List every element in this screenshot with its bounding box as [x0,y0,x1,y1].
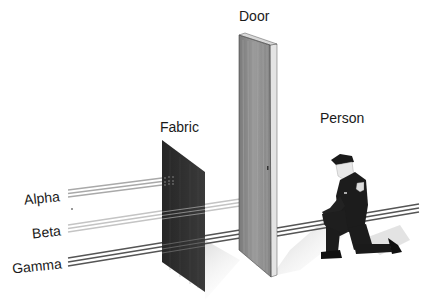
person-figure [321,154,402,259]
label-beta: Beta [31,223,61,242]
label-fabric: Fabric [160,119,199,135]
alpha-rays [68,178,162,197]
label-door: Door [239,8,269,24]
radiation-diagram: Door Fabric Person Alpha Beta Gamma [0,0,429,306]
diagram-canvas [0,0,429,306]
beta-rays [68,199,240,232]
label-person: Person [320,110,364,126]
door-barrier [239,33,277,277]
